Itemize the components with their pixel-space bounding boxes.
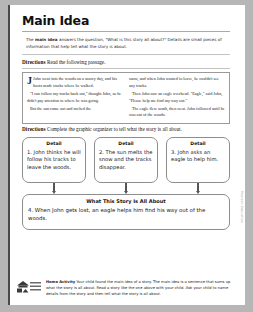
detail-box-1-text: 1. John thinks he will follow his tracks… [27, 149, 81, 171]
passage-left-line-1: John went into the woods on a snowy day,… [33, 76, 117, 88]
detail-box-2[interactable]: Detail 2. The sun melts the snow and the… [94, 137, 158, 183]
passage-right-column: snow, and when John wanted to leave, he … [129, 76, 225, 120]
directions-read-text: Read the following passage. [47, 59, 106, 65]
definition-divider [22, 54, 230, 55]
passage-paragraph: JJohn went into the woods on a snowy day… [27, 76, 123, 90]
home-activity-label: Home Activity [46, 280, 75, 284]
summary-text: 4. When John gets lost, an eagle helps h… [28, 207, 224, 223]
detail-box-3[interactable]: Detail 3. John asks an eagle to help him… [166, 137, 230, 183]
home-activity-footer: Home Activity Your child found the main … [16, 279, 238, 298]
passage-box: JJohn went into the woods on a snowy day… [22, 72, 230, 124]
home-activity-text: Home Activity Your child found the main … [46, 279, 238, 298]
passage-left-column: JJohn went into the woods on a snowy day… [27, 76, 123, 120]
copyright-text: Pearson Education [240, 191, 244, 223]
detail-box-1-label: Detail [27, 141, 81, 146]
definition-prefix: The [26, 37, 35, 42]
title-divider [22, 31, 230, 32]
arrow-down-icon [22, 183, 86, 194]
passage-paragraph: snow, and when John wanted to leave, he … [129, 76, 225, 90]
graphic-organizer: Detail 1. John thinks he will follow his… [22, 137, 230, 230]
arrow-down-icon [94, 183, 158, 194]
detail-box-1[interactable]: Detail 1. John thinks he will follow his… [22, 137, 86, 183]
definition-term: main idea [35, 37, 58, 42]
detail-box-2-text: 2. The sun melts the snow and the tracks… [99, 149, 153, 171]
directions-organizer-label: Directions [22, 126, 46, 132]
detail-box-2-label: Detail [99, 141, 153, 146]
arrow-connectors [22, 183, 230, 194]
summary-title: What This Story Is All About [28, 198, 224, 204]
detail-box-3-label: Detail [171, 141, 225, 146]
detail-box-3-text: 3. John asks an eagle to help him. [171, 149, 225, 164]
worksheet-content: Main Idea The main idea answers the ques… [22, 11, 230, 230]
passage-paragraph: The eagle flew south, then west. John fo… [129, 106, 225, 120]
passage-paragraph: Then John saw an eagle overhead. "Eagle,… [129, 91, 225, 105]
directions-read: Directions Read the following passage. [22, 57, 230, 66]
school-home-logo-icon [16, 279, 42, 294]
directions-read-label: Directions [22, 59, 46, 65]
detail-row: Detail 1. John thinks he will follow his… [22, 137, 230, 183]
definition-block: The main idea answers the question, "Wha… [22, 34, 230, 52]
worksheet-page: Main Idea The main idea answers the ques… [8, 5, 245, 305]
directions-divider [22, 68, 230, 69]
page-title: Main Idea [22, 13, 230, 28]
passage-paragraph: But the sun came out and melted the [27, 106, 123, 113]
directions-organizer-text: Complete the graphic organizer to tell w… [47, 126, 182, 132]
directions-organizer: Directions Complete the graphic organize… [22, 124, 230, 133]
passage-paragraph: "I can follow my tracks back out," thoug… [27, 91, 123, 105]
arrow-down-icon [166, 183, 230, 194]
summary-box[interactable]: What This Story Is All About 4. When Joh… [22, 194, 230, 230]
